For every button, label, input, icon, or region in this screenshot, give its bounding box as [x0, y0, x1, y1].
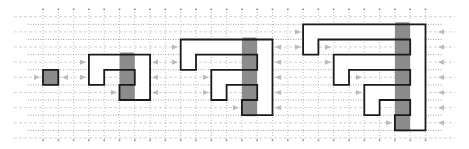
- grid-tick: [180, 140, 182, 142]
- arrow-right-icon: [111, 90, 117, 95]
- arrow-left-icon: [438, 29, 444, 34]
- shapes: [43, 22, 426, 131]
- grid-tick: [195, 140, 197, 142]
- grid-tick: [364, 9, 366, 11]
- grid-tick: [88, 140, 90, 142]
- grid-tick: [165, 9, 167, 11]
- arrow-right-icon: [80, 60, 86, 65]
- grid-tick: [119, 9, 121, 11]
- stage-2: [89, 53, 150, 101]
- arrow-left-icon: [275, 44, 281, 49]
- arrow-right-icon: [80, 75, 86, 80]
- grid-tick: [409, 9, 411, 11]
- grid-tick: [287, 9, 289, 11]
- shaded-column: [43, 70, 58, 85]
- grid-tick: [287, 140, 289, 142]
- arrow-left-icon: [438, 90, 444, 95]
- arrow-left-icon: [438, 75, 444, 80]
- arrow-left-icon: [152, 60, 158, 65]
- grid-tick: [103, 9, 105, 11]
- grid-tick: [180, 9, 182, 11]
- grid-tick: [318, 140, 320, 142]
- shaded-column: [242, 37, 257, 116]
- grid-tick: [379, 9, 381, 11]
- arrow-right-icon: [386, 120, 392, 125]
- arrow-left-icon: [438, 120, 444, 125]
- grid-tick: [195, 9, 197, 11]
- arrow-right-icon: [203, 90, 209, 95]
- arrow-left-icon: [438, 60, 444, 65]
- grid-tick: [42, 9, 44, 11]
- arrow-left-icon: [275, 105, 281, 110]
- grid-tick: [318, 9, 320, 11]
- grid-tick: [302, 140, 304, 142]
- spiral-polyomino-diagram: [0, 0, 469, 149]
- grid-tick: [149, 140, 151, 142]
- grid-tick: [348, 9, 350, 11]
- arrow-right-icon: [295, 44, 301, 49]
- grid-tick: [165, 140, 167, 142]
- grid-tick: [73, 140, 75, 142]
- grid-tick: [211, 9, 213, 11]
- grid-tick: [58, 9, 60, 11]
- shaded-column: [120, 53, 135, 101]
- grid-tick: [103, 140, 105, 142]
- arrow-left-icon: [275, 75, 281, 80]
- grid-tick: [119, 140, 121, 142]
- grid-tick: [241, 140, 243, 142]
- grid-tick: [272, 140, 274, 142]
- grid-tick: [256, 9, 258, 11]
- arrow-right-icon: [203, 75, 209, 80]
- arrow-left-icon: [275, 60, 281, 65]
- arrow-right-icon: [356, 90, 362, 95]
- arrow-right-icon: [325, 60, 331, 65]
- arrow-left-icon: [438, 105, 444, 110]
- arrow-right-icon: [172, 44, 178, 49]
- grid-tick: [425, 140, 427, 142]
- grid-tick: [226, 9, 228, 11]
- arrow-left-icon: [152, 75, 158, 80]
- grid-tick: [134, 140, 136, 142]
- grid-tick: [241, 9, 243, 11]
- grid-tick: [394, 140, 396, 142]
- arrow-left-icon: [62, 75, 68, 80]
- grid-tick: [134, 9, 136, 11]
- grid-tick: [211, 140, 213, 142]
- grid-tick: [73, 9, 75, 11]
- grid-tick: [58, 140, 60, 142]
- grid-tick: [379, 140, 381, 142]
- grid-tick: [425, 9, 427, 11]
- grid-tick: [149, 9, 151, 11]
- stage-1: [43, 70, 58, 85]
- arrow-right-icon: [295, 29, 301, 34]
- grid-tick: [333, 9, 335, 11]
- grid-tick: [364, 140, 366, 142]
- grid-tick: [394, 9, 396, 11]
- grid-tick: [333, 140, 335, 142]
- arrow-left-icon: [152, 90, 158, 95]
- arrow-right-icon: [34, 75, 40, 80]
- grid-tick: [302, 9, 304, 11]
- arrow-left-icon: [275, 90, 281, 95]
- arrow-right-icon: [325, 44, 331, 49]
- grid-tick: [348, 140, 350, 142]
- stage-3: [181, 37, 273, 116]
- grid-tick: [226, 140, 228, 142]
- grid-tick: [409, 140, 411, 142]
- grid-tick: [88, 9, 90, 11]
- grid-tick: [256, 140, 258, 142]
- arrow-right-icon: [172, 60, 178, 65]
- grid-tick: [272, 9, 274, 11]
- arrow-right-icon: [233, 105, 239, 110]
- arrow-left-icon: [438, 44, 444, 49]
- grid-tick: [42, 140, 44, 142]
- arrow-right-icon: [356, 75, 362, 80]
